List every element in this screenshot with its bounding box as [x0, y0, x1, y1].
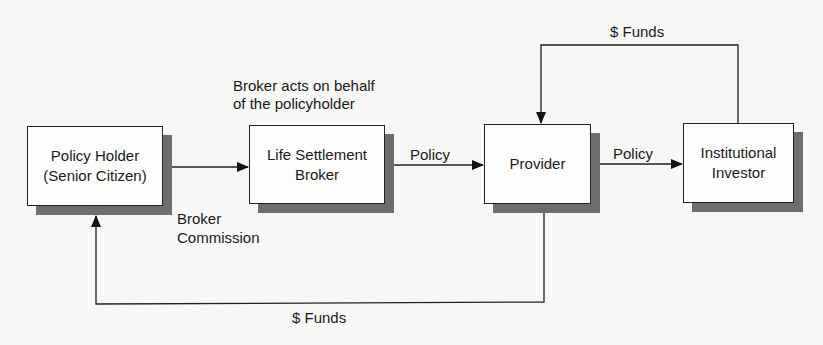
provider-label: Provider — [510, 154, 566, 174]
commission-label-line1: Broker — [177, 209, 221, 228]
commission-label-line2: Commission — [177, 228, 260, 247]
broker-node: Life SettlementBroker — [249, 125, 385, 204]
policy-holder-sublabel: (Senior Citizen) — [43, 166, 146, 186]
funds-top-label: $ Funds — [610, 22, 664, 41]
provider-node: Provider — [484, 124, 591, 204]
policy-holder-node: Policy Holder(Senior Citizen) — [27, 126, 163, 206]
policy-holder-label: Policy Holder — [43, 146, 146, 166]
investor-node: InstitutionalInvestor — [683, 123, 794, 203]
broker-note-line1: Broker acts on behalf — [233, 76, 375, 95]
investor-label: Institutional — [701, 143, 777, 163]
broker-label: Life Settlement — [267, 145, 367, 165]
broker-sublabel: Broker — [267, 165, 367, 185]
investor-sublabel: Investor — [701, 163, 777, 183]
broker-policy-label: Policy — [410, 145, 450, 164]
provider-policy-label: Policy — [613, 144, 653, 163]
funds-bottom-label: $ Funds — [292, 308, 346, 327]
broker-note-line2: of the policyholder — [233, 94, 355, 113]
